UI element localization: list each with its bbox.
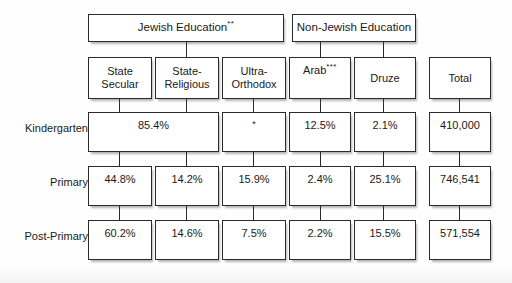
column-header-ultra-orthodox-line1: Ultra- [241, 65, 268, 77]
column-header-state-secular-line1: State [107, 65, 133, 77]
cell-kindergarten-ultra-orthodox: * [222, 112, 286, 152]
connector-primary-to-postprimary-total [459, 206, 460, 220]
cell-primary-arab-value: 2.4% [290, 173, 350, 186]
connector-state-religious-to-kindergarten [186, 99, 187, 112]
cell-primary-total: 746,541 [429, 166, 491, 206]
column-header-state-secular: State Secular [88, 57, 152, 99]
connector-primary-to-postprimary-arab [320, 206, 321, 220]
connector-primary-to-postprimary-state-secular [119, 206, 120, 220]
cell-post-primary-ultra-orthodox: 7.5% [222, 220, 286, 260]
page-scan-shadow [0, 265, 512, 283]
connector-kindergarten-to-primary-total [459, 152, 460, 166]
cell-primary-state-religious-value: 14.2% [156, 173, 218, 186]
cell-primary-arab: 2.4% [289, 166, 351, 206]
column-header-total: Total [429, 57, 491, 99]
cell-post-primary-arab-value: 2.2% [290, 227, 350, 240]
education-structure-chart: Jewish Education** Non-Jewish Education … [0, 0, 512, 283]
cell-post-primary-druze: 15.5% [354, 220, 416, 260]
cell-post-primary-total: 571,554 [429, 220, 491, 260]
column-header-state-secular-line2: Secular [101, 78, 138, 90]
connector-druze-to-kindergarten [383, 99, 384, 112]
cell-primary-ultra-orthodox-value: 15.9% [223, 173, 285, 186]
connector-nonjewish-to-arab [320, 42, 321, 57]
cell-primary-total-value: 746,541 [430, 173, 490, 186]
row-label-post-primary: Post-Primary [4, 230, 88, 242]
column-header-state-religious: State- Religious [155, 57, 219, 99]
cell-kindergarten-state-secular-religious-value: 85.4% [89, 119, 218, 132]
column-header-ultra-orthodox: Ultra- Orthodox [222, 57, 286, 99]
connector-arab-to-kindergarten [320, 99, 321, 112]
connector-primary-to-postprimary-state-religious [186, 206, 187, 220]
cell-post-primary-state-secular-value: 60.2% [89, 227, 151, 240]
connector-state-secular-to-kindergarten [119, 99, 120, 112]
cell-post-primary-state-religious: 14.6% [155, 220, 219, 260]
column-header-arab-line1: Arab [303, 64, 326, 76]
column-header-arab: Arab*** [289, 57, 351, 99]
cell-post-primary-state-secular: 60.2% [88, 220, 152, 260]
cell-post-primary-druze-value: 15.5% [355, 227, 415, 240]
cell-post-primary-state-religious-value: 14.6% [156, 227, 218, 240]
connector-kindergarten-to-primary-ultra-orthodox [253, 152, 254, 166]
arab-footnote-marker: *** [326, 62, 337, 71]
connector-jewish-to-state-religious [186, 42, 187, 57]
cell-kindergarten-arab: 12.5% [289, 112, 351, 152]
jewish-education-footnote-marker: ** [227, 19, 234, 28]
cell-primary-state-religious: 14.2% [155, 166, 219, 206]
cell-primary-state-secular-value: 44.8% [89, 173, 151, 186]
column-header-druze-line1: Druze [370, 72, 399, 84]
connector-nonjewish-to-druze [383, 42, 384, 57]
cell-kindergarten-total-value: 410,000 [430, 119, 490, 132]
connector-primary-to-postprimary-druze [383, 206, 384, 220]
cell-post-primary-ultra-orthodox-value: 7.5% [223, 227, 285, 240]
cell-primary-druze: 25.1% [354, 166, 416, 206]
connector-kindergarten-to-primary-druze [383, 152, 384, 166]
cell-kindergarten-total: 410,000 [429, 112, 491, 152]
cell-kindergarten-state-secular-religious: 85.4% [88, 112, 219, 152]
connector-ultra-orthodox-to-kindergarten [253, 99, 254, 112]
cell-primary-druze-value: 25.1% [355, 173, 415, 186]
row-label-primary: Primary [8, 176, 88, 188]
connector-total-to-kindergarten [459, 99, 460, 112]
cell-primary-state-secular: 44.8% [88, 166, 152, 206]
connector-primary-to-postprimary-ultra-orthodox [253, 206, 254, 220]
cell-kindergarten-ultra-orthodox-value: * [223, 119, 285, 130]
top-box-non-jewish-education: Non-Jewish Education [292, 14, 416, 42]
column-header-ultra-orthodox-line2: Orthodox [231, 78, 276, 90]
row-label-kindergarten: Kindergarten [8, 122, 88, 134]
connector-kindergarten-to-primary-state-religious [186, 152, 187, 166]
cell-kindergarten-druze: 2.1% [354, 112, 416, 152]
top-box-jewish-education-label: Jewish Education [138, 21, 228, 33]
column-header-druze: Druze [354, 57, 416, 99]
cell-kindergarten-arab-value: 12.5% [290, 119, 350, 132]
cell-post-primary-total-value: 571,554 [430, 227, 490, 240]
column-header-total-line1: Total [448, 72, 471, 84]
top-box-jewish-education: Jewish Education** [88, 14, 284, 42]
cell-primary-ultra-orthodox: 15.9% [222, 166, 286, 206]
top-box-non-jewish-education-label: Non-Jewish Education [297, 21, 411, 33]
connector-kindergarten-to-primary-state-secular [119, 152, 120, 166]
connector-kindergarten-to-primary-arab [320, 152, 321, 166]
cell-kindergarten-druze-value: 2.1% [355, 119, 415, 132]
column-header-state-religious-line2: Religious [164, 78, 209, 90]
column-header-state-religious-line1: State- [172, 65, 201, 77]
cell-post-primary-arab: 2.2% [289, 220, 351, 260]
